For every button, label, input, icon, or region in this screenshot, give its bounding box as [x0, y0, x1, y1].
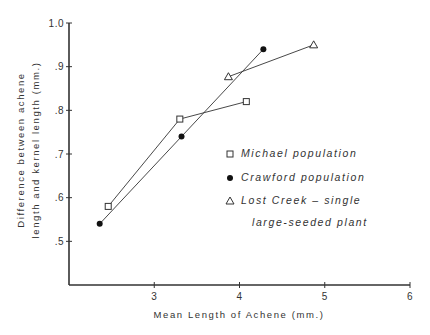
y-tick-label: .6 — [55, 192, 64, 203]
open-square-marker — [227, 151, 233, 157]
x-tick-label: 5 — [322, 291, 328, 302]
x-tick-label: 3 — [151, 291, 157, 302]
filled-circle-marker — [97, 221, 103, 227]
x-tick-label: 6 — [407, 291, 413, 302]
y-axis-title-line: Difference between achene — [15, 72, 26, 228]
y-tick-label: .7 — [55, 149, 64, 160]
legend-label: Michael population — [241, 147, 357, 159]
y-tick-label: 1.0 — [49, 18, 64, 29]
line-chart: .5.6.7.8.91.03456 Difference between ach… — [0, 0, 430, 335]
legend-label: Lost Creek – single — [241, 194, 361, 206]
y-axis-title-line: length and kernel length (mm.) — [30, 62, 41, 239]
series-open-triangle — [224, 41, 317, 80]
legend: Michael populationCrawford populationLos… — [226, 147, 368, 228]
open-triangle-marker — [224, 73, 232, 80]
y-tick-label: .8 — [55, 105, 64, 116]
legend-label: large-seeded plant — [252, 216, 368, 228]
open-square-marker — [177, 116, 183, 122]
y-tick-label: .5 — [55, 236, 64, 247]
open-triangle-marker — [226, 197, 234, 204]
axes: .5.6.7.8.91.03456 — [49, 18, 413, 303]
legend-label: Crawford population — [241, 171, 365, 183]
open-triangle-marker — [310, 41, 318, 48]
series-line — [228, 45, 313, 77]
filled-circle-marker — [179, 134, 185, 140]
y-axis-title: Difference between achenelength and kern… — [15, 62, 41, 239]
x-axis-title: Mean Length of Achene (mm.) — [154, 309, 325, 320]
open-square-marker — [243, 99, 249, 105]
x-tick-label: 4 — [236, 291, 242, 302]
open-square-marker — [105, 203, 111, 209]
y-tick-label: .9 — [55, 61, 64, 72]
filled-circle-marker — [260, 46, 266, 52]
filled-circle-marker — [227, 175, 233, 181]
